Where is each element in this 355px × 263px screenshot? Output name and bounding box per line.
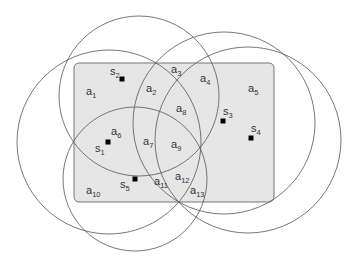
- sensor-marker-s2: [120, 77, 125, 82]
- sensor-coverage-diagram: s1 s2 s3 s4 s5 a1 a2 a3 a4 a5 a6 a7 a8 a…: [0, 0, 355, 263]
- sensor-marker-s1: [106, 140, 111, 145]
- sensor-marker-s4: [249, 136, 254, 141]
- sensor-marker-s3: [221, 119, 226, 124]
- sensor-marker-s5: [133, 177, 138, 182]
